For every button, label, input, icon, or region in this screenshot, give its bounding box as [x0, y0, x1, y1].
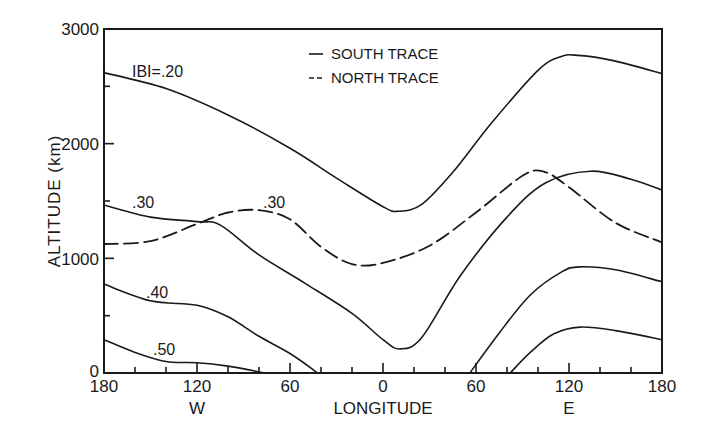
south-trace-curve-2 — [104, 284, 318, 373]
curve-label-b20: IBI=.20 — [132, 63, 183, 80]
x-tick-label-0: 0 — [378, 377, 387, 396]
curve-label-b30-south: .30 — [132, 194, 154, 211]
x-tick-label-60e: 60 — [467, 377, 486, 396]
curves — [104, 55, 662, 373]
legend: SOUTH TRACE NORTH TRACE — [309, 45, 439, 86]
y-tick-labels: 3000 2000 1000 0 — [61, 20, 99, 381]
x-tick-label-60w: 60 — [281, 377, 300, 396]
y-tick-label-1000: 1000 — [61, 250, 99, 269]
x-axis-west-label: W — [189, 399, 205, 418]
south-trace-curve-1 — [104, 171, 662, 349]
x-tick-label-120w: 120 — [183, 377, 211, 396]
x-axis-east-label: E — [563, 399, 574, 418]
x-tick-labels: 180 120 60 0 60 120 180 — [90, 377, 676, 396]
x-tick-label-120e: 120 — [555, 377, 583, 396]
south-trace-curve-3 — [470, 267, 662, 373]
legend-north-trace: NORTH TRACE — [331, 69, 439, 86]
curve-label-b30-north: .30 — [263, 194, 285, 211]
north-trace-curve-6 — [104, 170, 662, 265]
altitude-longitude-chart: 3000 2000 1000 0 ALTITUDE (km) 180 120 6… — [0, 0, 706, 429]
curve-labels: IBI=.20 .30 .30 .40 .50 — [132, 63, 285, 358]
curve-label-b50: .50 — [153, 341, 175, 358]
x-tick-label-180e: 180 — [648, 377, 676, 396]
south-trace-curve-4 — [104, 340, 265, 373]
y-tick-label-2000: 2000 — [61, 135, 99, 154]
south-trace-curve-5 — [510, 327, 662, 373]
y-axis-label: ALTITUDE (km) — [45, 135, 64, 268]
legend-south-trace: SOUTH TRACE — [331, 45, 438, 62]
x-axis-label: LONGITUDE — [333, 399, 432, 418]
y-tick-label-3000: 3000 — [61, 20, 99, 39]
curve-label-b40: .40 — [146, 284, 168, 301]
x-tick-label-180w: 180 — [90, 377, 118, 396]
